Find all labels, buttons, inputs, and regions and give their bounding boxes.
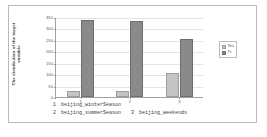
y-axis-tick-label: 350 [46, 16, 53, 20]
caption-text: beijing_weekends [139, 110, 187, 116]
y-axis-tick-label: 200 [46, 50, 53, 54]
y-axis-tick-label: 100 [46, 73, 53, 77]
y-axis-tick [54, 98, 56, 99]
bar-group [105, 18, 154, 97]
legend-item[interactable]: Tr [222, 50, 234, 56]
chart-figure: The distribution of the target variable … [8, 5, 257, 123]
bar-group [155, 18, 204, 97]
y-axis-tick-label: 150 [46, 62, 53, 66]
bar-tes-2 [116, 91, 129, 97]
caption-text: beijing_winterSeason [61, 102, 121, 108]
y-axis-tick-label: 0 [51, 96, 53, 100]
bar-tr-3 [180, 39, 193, 97]
bar-tr-1 [81, 20, 94, 97]
bar-group [56, 18, 105, 97]
bar-tr-2 [130, 21, 143, 97]
y-axis-tick-label: 50 [48, 84, 53, 88]
caption-index: 1 [53, 102, 61, 110]
caption-index: 3 [131, 110, 139, 118]
y-axis-tick-label: 300 [46, 27, 53, 31]
plot-inner: 050100150200250300350123 [56, 18, 203, 97]
plot-area: 050100150200250300350123 [55, 18, 203, 98]
legend-swatch-train [222, 51, 226, 55]
chart-caption: 1beijing_winterSeason2beijing_summerSeas… [53, 102, 253, 117]
caption-index: 2 [53, 110, 61, 118]
chart-legend: TesTr [219, 41, 237, 58]
bar-tes-3 [166, 73, 179, 97]
legend-label: Tr [228, 50, 232, 54]
caption-text: beijing_summerSeason [61, 110, 121, 116]
legend-label: Tes [228, 44, 235, 48]
legend-swatch-test [222, 45, 226, 49]
caption-line: 1beijing_winterSeason [53, 102, 253, 110]
bar-tes-1 [67, 91, 80, 97]
y-axis-title: The distribution of the target variable [11, 15, 31, 93]
y-axis-tick-label: 250 [46, 39, 53, 43]
caption-line: 2beijing_summerSeason3beijing_weekends [53, 110, 253, 118]
